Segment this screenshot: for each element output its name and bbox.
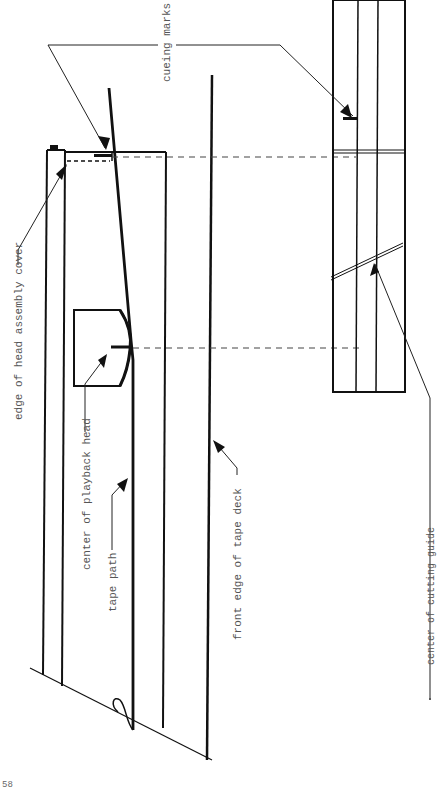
- label-front-edge-of-tape-deck: front edge of tape deck: [232, 488, 244, 640]
- cueing-mark-deck: [67, 153, 112, 161]
- playback-head: [74, 310, 131, 386]
- label-edge-of-head-assembly-cover: edge of head assembly cover: [13, 242, 25, 420]
- leader-lines: [18, 45, 430, 700]
- tape-deck-diagram: cueing marks edge of head assembly cover…: [0, 0, 440, 789]
- tape-path-line: [109, 88, 133, 730]
- page-number: 58: [2, 780, 13, 789]
- splicing-block: [331, 0, 405, 392]
- label-tape-path: tape path: [107, 553, 119, 612]
- projection-lines: [112, 157, 360, 348]
- tape-deck-outline: [30, 75, 212, 760]
- arrowheads: [56, 104, 379, 492]
- label-center-of-cutting-guide: center of cutting guide: [426, 527, 437, 665]
- label-cueing-marks: cueing marks: [161, 3, 173, 82]
- label-center-of-playback-head: center of playback head: [81, 418, 93, 570]
